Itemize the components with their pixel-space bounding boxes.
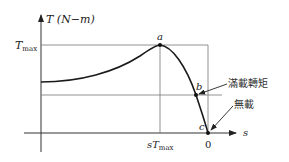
rated-torque-annotation: 滿載轉矩 <box>228 77 268 89</box>
stmax-label: sTmax <box>147 139 174 152</box>
point-a <box>158 43 162 47</box>
no-load-arrow <box>211 106 233 130</box>
point-b <box>194 93 198 97</box>
point-c <box>206 131 210 135</box>
tmax-label: Tmax <box>15 39 37 53</box>
rated-torque-arrow <box>199 84 227 94</box>
origin-label: 0 <box>205 139 211 150</box>
y-axis-label: T (N−m) <box>46 13 95 26</box>
point-b-label: b <box>196 81 202 92</box>
point-a-label: a <box>157 31 163 42</box>
no-load-annotation: 無載 <box>234 98 254 110</box>
point-c-label: c <box>199 121 205 132</box>
torque-slip-diagram: T (N−m) Tmax a b c 滿載轉矩 無載 s 0 sTmax <box>0 0 289 162</box>
torque-curve <box>41 45 208 133</box>
x-axis-label: s <box>243 127 248 138</box>
